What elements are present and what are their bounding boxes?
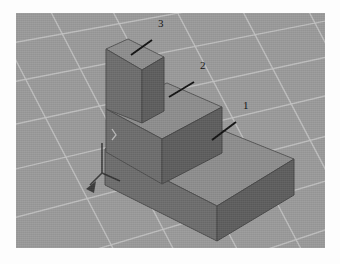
callout-1-label: 1 [243, 99, 249, 111]
callout-3-label: 3 [158, 17, 164, 29]
callout-2-label: 2 [200, 59, 206, 71]
scene-canvas: 1 2 3 [16, 13, 325, 248]
screenshot-root: 1 2 3 [0, 0, 340, 264]
render-viewport[interactable]: 1 2 3 [16, 13, 325, 248]
